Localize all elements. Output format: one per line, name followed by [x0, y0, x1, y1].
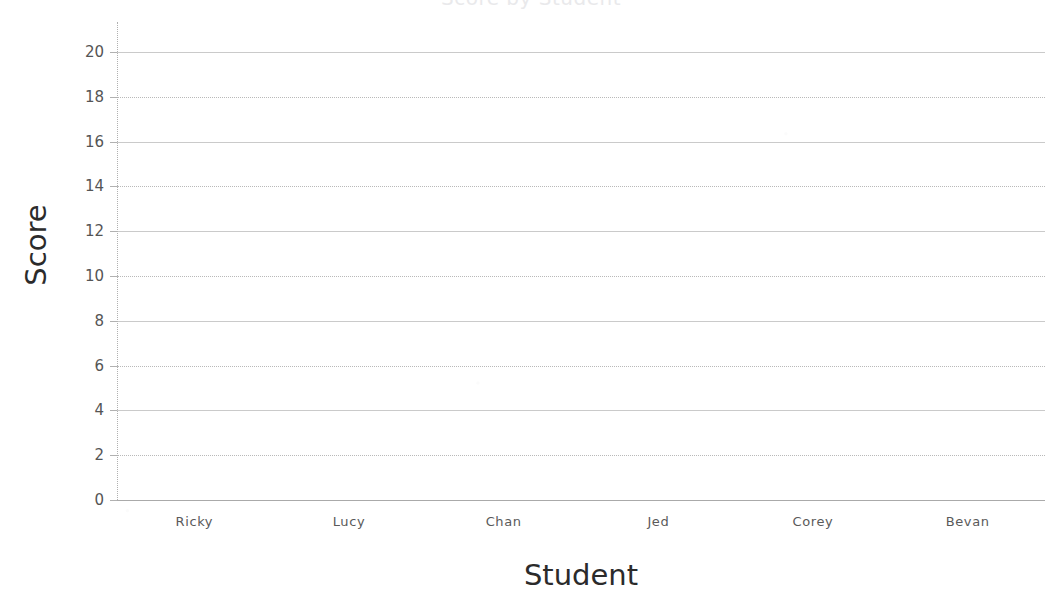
y-tick-label: 12: [60, 222, 104, 240]
y-tick-label: 4: [60, 401, 104, 419]
x-axis-title: Student: [117, 558, 1045, 592]
plot-area: [117, 52, 1045, 500]
y-tick-label: 8: [60, 312, 104, 330]
y-tick-label: 14: [60, 177, 104, 195]
chart-container: Score by Student 02468101214161820 Ricky…: [0, 0, 1062, 608]
y-tick-label: 10: [60, 267, 104, 285]
y-tick-mark: [110, 366, 117, 367]
gridline: [117, 186, 1045, 187]
y-tick-mark: [110, 142, 117, 143]
y-axis-title: Score: [19, 145, 53, 345]
x-axis-line: [117, 500, 1045, 501]
gridline: [117, 410, 1045, 411]
gridline: [117, 455, 1045, 456]
x-tick-label: Chan: [486, 514, 522, 529]
chart-title: Score by Student: [0, 0, 1062, 10]
y-tick-mark: [110, 410, 117, 411]
y-tick-mark: [110, 500, 117, 501]
y-tick-label: 18: [60, 88, 104, 106]
gridline: [117, 231, 1045, 232]
y-tick-mark: [110, 52, 117, 53]
y-tick-label: 2: [60, 446, 104, 464]
y-tick-mark: [110, 231, 117, 232]
y-tick-label: 0: [60, 491, 104, 509]
gridline: [117, 142, 1045, 143]
gridline: [117, 52, 1045, 53]
gridline: [117, 97, 1045, 98]
x-tick-label: Bevan: [946, 514, 990, 529]
y-tick-label: 16: [60, 133, 104, 151]
y-tick-mark: [110, 455, 117, 456]
x-tick-label: Ricky: [176, 514, 214, 529]
y-tick-label: 20: [60, 43, 104, 61]
y-tick-mark: [110, 97, 117, 98]
gridline: [117, 321, 1045, 322]
x-tick-label: Jed: [647, 514, 669, 529]
x-tick-label: Lucy: [333, 514, 366, 529]
y-tick-label: 6: [60, 357, 104, 375]
gridlines: [117, 52, 1045, 500]
x-tick-label: Corey: [793, 514, 834, 529]
y-tick-mark: [110, 276, 117, 277]
gridline: [117, 366, 1045, 367]
gridline: [117, 276, 1045, 277]
y-tick-mark: [110, 321, 117, 322]
y-tick-mark: [110, 186, 117, 187]
